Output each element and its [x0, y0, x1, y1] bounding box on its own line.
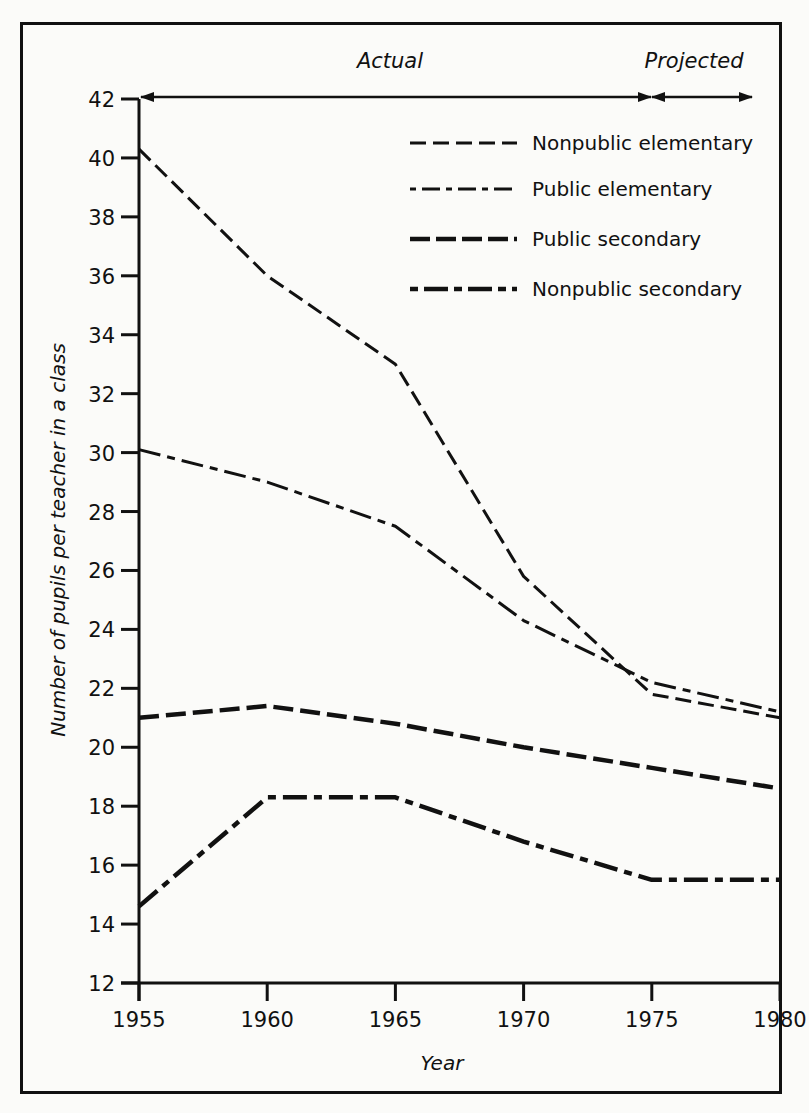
y-tick-label: 40 — [88, 147, 115, 171]
series-nonpublic-secondary — [139, 797, 780, 906]
y-tick-label: 28 — [88, 501, 115, 525]
x-tick-label: 1960 — [240, 1008, 293, 1032]
y-tick-label: 30 — [88, 442, 115, 466]
y-axis-ticks: 12141618202224262830323436384042 — [88, 88, 139, 996]
x-tick-label: 1965 — [369, 1008, 422, 1032]
y-tick-label: 26 — [88, 559, 115, 583]
y-tick-label: 20 — [88, 736, 115, 760]
y-tick-label: 22 — [88, 677, 115, 701]
y-tick-label: 42 — [88, 88, 115, 112]
legend-label: Public secondary — [532, 227, 701, 251]
y-tick-label: 38 — [88, 206, 115, 230]
x-tick-label: 1980 — [753, 1008, 806, 1032]
legend-label: Public elementary — [532, 177, 712, 201]
x-axis-title: Year — [421, 1051, 466, 1075]
projected-label: Projected — [645, 49, 745, 73]
y-tick-label: 12 — [88, 972, 115, 996]
series-lines — [139, 149, 780, 906]
x-axis-ticks: 195519601965197019751980 — [112, 983, 806, 1032]
x-tick-label: 1970 — [497, 1008, 550, 1032]
y-tick-label: 34 — [88, 324, 115, 348]
y-tick-label: 18 — [88, 795, 115, 819]
series-public-elementary — [139, 450, 780, 712]
y-tick-label: 16 — [88, 854, 115, 878]
y-tick-label: 36 — [88, 265, 115, 289]
x-tick-label: 1975 — [625, 1008, 678, 1032]
y-axis-title: Number of pupils per teacher in a class — [46, 343, 70, 737]
legend-label: Nonpublic secondary — [532, 277, 742, 301]
legend-label: Nonpublic elementary — [532, 131, 753, 155]
y-tick-label: 24 — [88, 618, 115, 642]
x-tick-label: 1955 — [112, 1008, 165, 1032]
series-public-secondary — [139, 706, 780, 789]
actual-label: Actual — [355, 49, 423, 73]
y-tick-label: 14 — [88, 913, 115, 937]
line-chart: Actual Projected 12141618202224262830323… — [0, 0, 809, 1113]
y-tick-label: 32 — [88, 383, 115, 407]
legend: Nonpublic elementary Public elementary P… — [410, 131, 753, 301]
